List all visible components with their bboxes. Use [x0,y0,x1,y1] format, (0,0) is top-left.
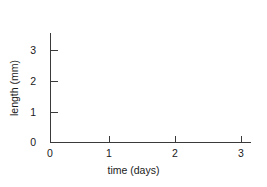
y-tick-mark-2 [51,81,58,82]
plot-area [51,33,251,142]
y-tick-label-3: 3 [22,45,36,56]
x-tick-mark-2 [175,136,176,143]
y-tick-label-2-holder: 2 [22,76,36,87]
y-axis-title: length (mm) [8,48,20,128]
y-tick-label-1: 1 [22,107,36,118]
x-tick-label-1: 1 [99,148,119,159]
y-tick-label-1-holder: 1 [22,107,36,118]
x-tick-label-3: 3 [231,148,251,159]
x-axis-title: time (days) [0,164,267,176]
x-tick-label-0: 0 [40,148,60,159]
y-tick-label-0-holder: 0 [22,137,36,148]
y-tick-label-2: 2 [22,76,36,87]
x-axis-line [50,142,251,143]
chart-figure: 3 2 1 0 0 1 2 3 time (days) length (mm) [0,0,267,187]
y-tick-mark-1 [51,112,58,113]
y-tick-label-0: 0 [22,137,36,148]
y-tick-label-3-holder: 3 [22,45,36,56]
x-tick-mark-1 [109,136,110,143]
x-tick-mark-3 [241,136,242,143]
x-tick-label-2: 2 [165,148,185,159]
y-tick-mark-3 [51,50,58,51]
